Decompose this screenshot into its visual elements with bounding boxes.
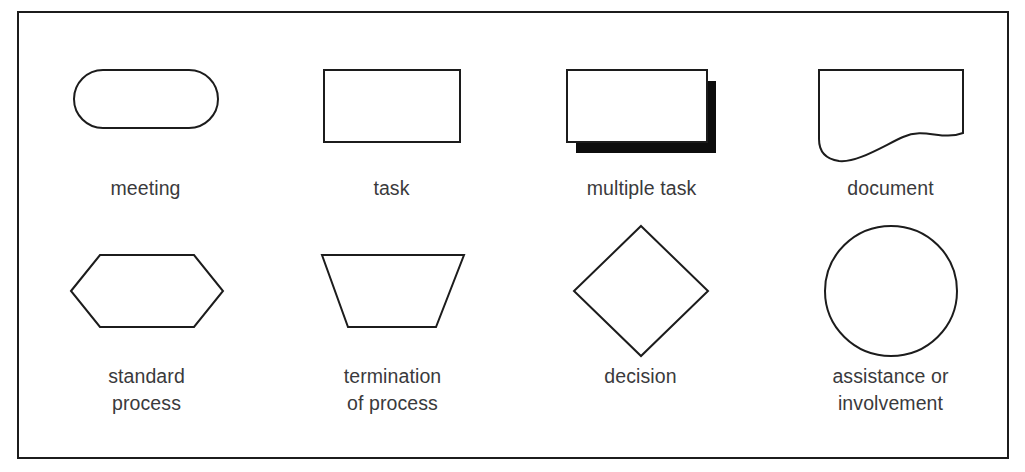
- shape-rectangle: [323, 69, 461, 161]
- legend-label-task: task: [373, 175, 409, 202]
- legend-item-standard-process[interactable]: standard process: [19, 235, 266, 457]
- shape-document-wave: [817, 69, 965, 161]
- shape-stadium: [73, 69, 219, 161]
- legend-item-document[interactable]: document: [760, 13, 1007, 235]
- legend-item-termination-process[interactable]: termination of process: [266, 235, 513, 457]
- legend-label-termination-process: termination of process: [344, 363, 442, 417]
- legend-item-task[interactable]: task: [266, 13, 513, 235]
- shape-diamond: [572, 241, 710, 341]
- shape-stacked-rectangles: [566, 69, 718, 161]
- legend-label-document: document: [847, 175, 933, 202]
- shape-circle: [823, 241, 959, 341]
- shape-trapezoid: [320, 241, 466, 341]
- legend-label-multiple-task: multiple task: [587, 175, 697, 202]
- legend-label-assistance: assistance or involvement: [832, 363, 948, 417]
- legend-item-multiple-task[interactable]: multiple task: [513, 13, 760, 235]
- legend-label-standard-process: standard process: [108, 363, 185, 417]
- legend-item-assistance[interactable]: assistance or involvement: [760, 235, 1007, 457]
- legend-grid: meeting task multiple: [19, 13, 1007, 457]
- shape-front-rectangle: [567, 70, 707, 142]
- legend-frame: meeting task multiple: [17, 11, 1009, 459]
- legend-item-decision[interactable]: decision: [513, 235, 760, 457]
- shape-hexagon: [69, 241, 225, 341]
- legend-item-meeting[interactable]: meeting: [19, 13, 266, 235]
- legend-label-decision: decision: [604, 363, 676, 390]
- legend-label-meeting: meeting: [110, 175, 180, 202]
